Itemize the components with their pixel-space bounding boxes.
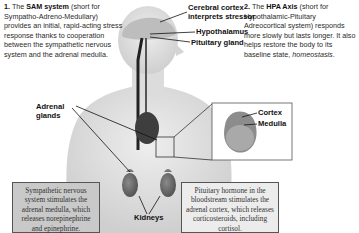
cerebral-cortex-label-line1: Cerebral cortex bbox=[188, 3, 255, 12]
homeostasis-term: homeostasis bbox=[292, 50, 332, 59]
note-number: 1. bbox=[4, 2, 10, 11]
adrenal-label-line1: Adrenal bbox=[36, 102, 64, 111]
kidneys-label: Kidneys bbox=[134, 213, 164, 222]
sam-explanation-box: Sympathetic nervous system stimulates th… bbox=[12, 182, 100, 233]
note-suffix: . bbox=[333, 50, 335, 59]
note-prefix: The bbox=[12, 2, 26, 11]
hpa-axis-term: HPA Axis bbox=[266, 2, 297, 11]
hpa-explanation-box: Pituitary hormone in the bloodstream sti… bbox=[181, 182, 279, 233]
hpa-axis-note: 2. The HPA Axis (short for Hypothalamic-… bbox=[244, 2, 358, 60]
cerebral-cortex-label: Cerebral cortex interprets stressor bbox=[188, 3, 255, 21]
medulla-label: Medulla bbox=[258, 119, 286, 128]
sam-system-note: 1. The SAM system (short for Sympatho-Ad… bbox=[4, 2, 126, 60]
cortex-label: Cortex bbox=[258, 108, 282, 117]
sam-system-term: SAM system bbox=[26, 2, 69, 11]
adrenal-label-line2: glands bbox=[36, 111, 64, 120]
pituitary-gland-label: Pituitary gland bbox=[191, 38, 244, 47]
cerebral-cortex-label-line2: interprets stressor bbox=[188, 12, 255, 21]
hypothalamus-label: Hypothalamus bbox=[196, 27, 248, 36]
adrenal-glands-label: Adrenal glands bbox=[36, 102, 64, 120]
